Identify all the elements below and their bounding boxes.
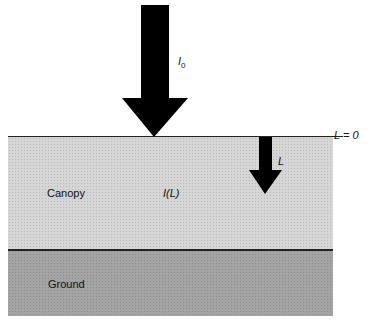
depth-label: L: [278, 155, 284, 167]
ground-label: Ground: [48, 278, 85, 290]
canopy-label: Canopy: [47, 187, 85, 199]
surface-label: L = 0: [334, 129, 359, 141]
intensity-at-depth-label: I(L): [163, 187, 180, 199]
incident-light-arrow-icon: [122, 5, 188, 137]
incident-intensity-label: I0: [178, 55, 186, 70]
